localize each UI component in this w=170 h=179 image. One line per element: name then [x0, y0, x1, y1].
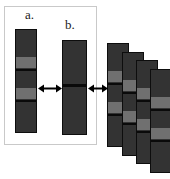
- arrow-a-b: [38, 83, 62, 94]
- figure-label-a: a.: [25, 8, 34, 21]
- lane-b-band-0: [63, 84, 86, 87]
- figure-label-b: b.: [65, 18, 75, 31]
- lane-stack-4: [150, 69, 170, 173]
- arrow-b-stack: [88, 83, 108, 94]
- lane-a-band-1: [16, 69, 36, 71]
- lane-stack-4-band-2: [151, 128, 170, 139]
- lane-b: [62, 40, 87, 135]
- lane-stack-4-band-0: [151, 97, 170, 108]
- lane-a-band-2: [16, 88, 36, 99]
- gel-lane-figure: a. b.: [0, 0, 170, 179]
- lane-stack-4-band-1: [151, 109, 170, 111]
- lane-a-band-3: [16, 100, 36, 102]
- lane-a-band-0: [16, 57, 36, 68]
- lane-a: [15, 29, 37, 133]
- lane-stack-4-band-3: [151, 140, 170, 142]
